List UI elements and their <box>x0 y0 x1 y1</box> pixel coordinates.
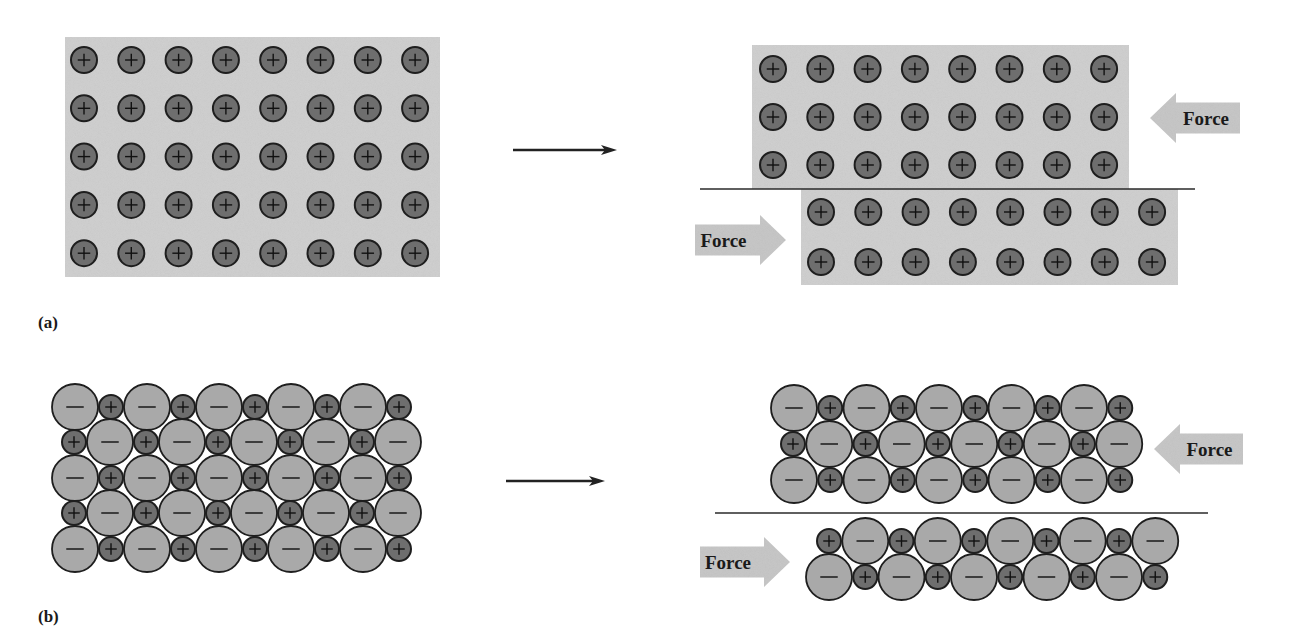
cation-ion <box>926 432 950 456</box>
cation-ion <box>166 47 192 73</box>
anion-ion <box>987 518 1033 564</box>
anion-ion <box>842 518 888 564</box>
anion-ion <box>268 384 314 430</box>
cation-ion <box>1036 396 1060 420</box>
anion-ion <box>879 554 925 600</box>
cation-ion <box>315 537 339 561</box>
cation-ion <box>949 152 975 178</box>
anion-ion <box>52 384 98 430</box>
cation-ion <box>387 466 411 490</box>
cation-ion <box>171 466 195 490</box>
cation-ion <box>760 56 786 82</box>
cation-ion <box>855 56 881 82</box>
cation-ion <box>903 249 929 275</box>
cation-ion <box>166 240 192 266</box>
cation-ion <box>99 537 123 561</box>
force-label: Force <box>1183 108 1229 129</box>
cation-ion <box>760 152 786 178</box>
cation-ion <box>278 430 302 454</box>
cation-ion <box>997 249 1023 275</box>
anion-ion <box>951 554 997 600</box>
metal-vs-ionic-shear-diagram: ForceForce ForceForce <box>0 0 1296 633</box>
cation-ion <box>308 192 334 218</box>
anion-ion <box>844 457 890 503</box>
force-arrow-left: Force <box>1150 93 1240 143</box>
anion-ion <box>196 526 242 572</box>
cation-ion <box>949 104 975 130</box>
cation-ion <box>62 501 86 525</box>
anion-ion <box>159 419 205 465</box>
anion-ion <box>1024 421 1070 467</box>
cation-ion <box>387 537 411 561</box>
cation-ion <box>891 468 915 492</box>
cation-ion <box>781 432 805 456</box>
cation-ion <box>807 152 833 178</box>
cation-ion <box>315 466 339 490</box>
cation-ion <box>808 199 834 225</box>
anion-ion <box>124 455 170 501</box>
cation-ion <box>166 192 192 218</box>
cation-ion <box>1108 468 1132 492</box>
cation-ion <box>1071 432 1095 456</box>
anion-ion <box>1132 518 1178 564</box>
cation-ion <box>997 104 1023 130</box>
anion-ion <box>989 457 1035 503</box>
anion-ion <box>340 526 386 572</box>
cation-ion <box>355 240 381 266</box>
cation-ion <box>134 501 158 525</box>
panel-label-b: (b) <box>38 607 59 627</box>
cation-ion <box>760 104 786 130</box>
metal-lattice-after-shear: ForceForce <box>695 45 1240 285</box>
anion-ion <box>1061 457 1107 503</box>
cation-ion <box>118 95 144 121</box>
cation-ion <box>902 56 928 82</box>
cation-ion <box>1139 249 1165 275</box>
transition-arrow-a <box>513 145 617 155</box>
panel-a-metal: ForceForce <box>65 37 1240 285</box>
cation-ion <box>1071 565 1095 589</box>
anion-ion <box>87 419 133 465</box>
cation-ion <box>350 430 374 454</box>
cation-ion <box>71 192 97 218</box>
cation-ion <box>166 95 192 121</box>
cation-ion <box>817 529 841 553</box>
cation-ion <box>171 537 195 561</box>
anion-ion <box>844 385 890 431</box>
cation-ion <box>308 47 334 73</box>
cation-ion <box>260 192 286 218</box>
cation-ion <box>118 192 144 218</box>
anion-ion <box>196 384 242 430</box>
cation-ion <box>206 501 230 525</box>
anion-ion <box>52 455 98 501</box>
cation-ion <box>855 249 881 275</box>
cation-ion <box>818 396 842 420</box>
cation-ion <box>1143 565 1167 589</box>
cation-ion <box>260 240 286 266</box>
cation-ion <box>807 104 833 130</box>
transition-arrow-b <box>506 476 605 486</box>
cation-ion <box>402 144 428 170</box>
cation-ion <box>902 152 928 178</box>
cation-ion <box>999 432 1023 456</box>
cation-ion <box>355 192 381 218</box>
anion-ion <box>1096 421 1142 467</box>
cation-ion <box>206 430 230 454</box>
anion-ion <box>303 419 349 465</box>
anion-ion <box>375 490 421 536</box>
cation-ion <box>890 529 914 553</box>
anion-ion <box>87 490 133 536</box>
cation-ion <box>213 240 239 266</box>
cation-ion <box>260 95 286 121</box>
cation-ion <box>808 249 834 275</box>
anion-ion <box>52 526 98 572</box>
cation-ion <box>71 240 97 266</box>
cation-ion <box>807 56 833 82</box>
anion-ion <box>231 490 277 536</box>
cation-ion <box>1045 249 1071 275</box>
cation-ion <box>1091 104 1117 130</box>
cation-ion <box>71 47 97 73</box>
anion-ion <box>806 554 852 600</box>
anion-ion <box>159 490 205 536</box>
cation-ion <box>213 95 239 121</box>
panel-b-ionic: ForceForce <box>52 384 1243 600</box>
